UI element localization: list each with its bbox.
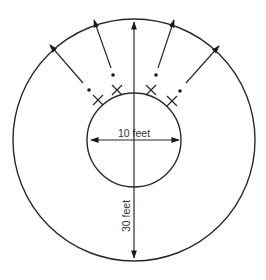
radial-arrow-3 (158, 20, 174, 68)
dot-marker-1 (87, 88, 91, 92)
x-marker-1 (93, 95, 103, 105)
outer-diameter-label: 30 feet (120, 200, 132, 232)
dot-marker-2 (111, 73, 115, 77)
diagram-canvas: 10 feet 30 feet (0, 0, 266, 280)
x-marker-2 (112, 85, 122, 95)
radial-arrow-1 (50, 45, 83, 83)
radial-arrow-2 (94, 20, 111, 68)
concentric-circles-diagram: 10 feet 30 feet (0, 0, 266, 280)
dot-marker-3 (154, 73, 158, 77)
radial-arrow-4 (186, 46, 219, 83)
dot-marker-4 (178, 89, 182, 93)
inner-diameter-label: 10 feet (118, 127, 150, 139)
x-marker-3 (146, 85, 156, 95)
x-marker-4 (167, 96, 177, 106)
